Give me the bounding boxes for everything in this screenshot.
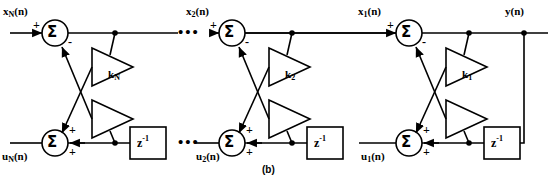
wire-upper-gain-to-bottom-adder-N bbox=[62, 67, 92, 133]
input-label-2: x2(n) bbox=[186, 5, 209, 19]
wire-tap-to-lower-gain-2 bbox=[287, 131, 292, 143]
wire-lower-gain-to-top-adder-N bbox=[62, 47, 92, 119]
adder-glyph-top-1: Σ bbox=[401, 23, 411, 41]
gain-label-2: k2 bbox=[285, 68, 295, 82]
sign-plus-bottom-lower-1: + bbox=[423, 146, 430, 158]
gain-triangle-lower-1 bbox=[446, 100, 487, 138]
adder-glyph-bottom-1: Σ bbox=[401, 133, 411, 151]
delay-label-2: z-1 bbox=[314, 134, 326, 151]
figure-caption: (b) bbox=[262, 164, 275, 175]
gain-triangle-lower-N bbox=[92, 100, 133, 138]
sign-plus-bottom-upper-1: + bbox=[423, 124, 430, 136]
wire-upper-gain-to-bottom-adder-1 bbox=[416, 67, 446, 133]
output-feedback-group bbox=[520, 30, 527, 143]
sign-plus-bottom-lower-2: + bbox=[246, 146, 253, 158]
adder-glyph-bottom-2: Σ bbox=[224, 133, 234, 151]
figure-lattice-filter: xN(n) + - x2(n) + - x1(n) + - y(n) Σ Σ Σ… bbox=[0, 0, 553, 180]
bottom-label-u1: u1(n) bbox=[361, 150, 385, 164]
wire-lower-gain-to-top-adder-1 bbox=[416, 47, 446, 119]
wire-lower-gain-to-top-adder-2 bbox=[239, 47, 269, 119]
bottom-label-uN: uN(n) bbox=[2, 150, 27, 164]
ellipsis-top: ••• bbox=[178, 25, 200, 40]
input-label-1: x1(n) bbox=[358, 5, 381, 19]
signal-flow-graph bbox=[0, 0, 553, 180]
sign-plus-bottom-upper-2: + bbox=[246, 124, 253, 136]
gain-label-N: kN bbox=[108, 68, 120, 82]
sign-plus-bottom-lower-N: + bbox=[69, 146, 76, 158]
ellipsis-bottom: ••• bbox=[178, 135, 200, 150]
bottom-label-u2: u2(n) bbox=[196, 150, 220, 164]
delay-label-1: z-1 bbox=[491, 134, 503, 151]
sign-minus-top-N: - bbox=[68, 36, 72, 48]
wire-tap-to-upper-gain-N bbox=[110, 33, 115, 55]
wire-tap-to-upper-gain-1 bbox=[464, 33, 469, 55]
sign-plus-bottom-upper-N: + bbox=[69, 124, 76, 136]
gain-label-1: k1 bbox=[462, 68, 472, 82]
sign-plus-top-2: + bbox=[210, 19, 217, 31]
wire-tap-to-upper-gain-2 bbox=[287, 33, 292, 55]
sign-minus-top-1: - bbox=[422, 36, 426, 48]
sign-minus-top-2: - bbox=[245, 36, 249, 48]
adder-glyph-bottom-N: Σ bbox=[47, 133, 57, 151]
wire-tap-to-lower-gain-1 bbox=[464, 131, 469, 143]
sign-plus-top-1: + bbox=[387, 19, 394, 31]
output-label-y: y(n) bbox=[505, 5, 524, 17]
input-label-N: xN(n) bbox=[3, 5, 28, 19]
wire-tap-to-lower-gain-N bbox=[110, 131, 115, 143]
sign-plus-top-N: + bbox=[33, 19, 40, 31]
adder-glyph-top-N: Σ bbox=[47, 23, 57, 41]
adder-glyph-top-2: Σ bbox=[224, 23, 234, 41]
wire-upper-gain-to-bottom-adder-2 bbox=[239, 67, 269, 133]
gain-triangle-lower-2 bbox=[269, 100, 310, 138]
delay-label-N: z-1 bbox=[137, 134, 149, 151]
